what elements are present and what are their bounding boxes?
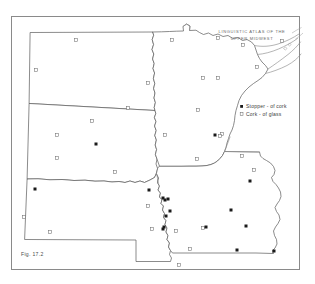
data-point-marker [178, 264, 181, 267]
legend-label-cork-of-glass: Cork - of glass [246, 111, 282, 117]
apostle-islands-1 [284, 47, 288, 50]
data-point-marker [164, 199, 167, 202]
state-south-dakota [28, 104, 158, 183]
data-point-marker [49, 231, 52, 234]
data-point-marker [273, 250, 276, 253]
data-point-marker [205, 226, 208, 229]
data-point-marker [34, 188, 37, 191]
data-point-marker [219, 135, 222, 138]
data-point-marker [217, 37, 220, 40]
data-point-marker [167, 198, 170, 201]
data-point-marker [202, 77, 205, 80]
data-point-marker [162, 228, 165, 231]
data-point-marker [245, 225, 248, 228]
data-point-marker [91, 120, 94, 123]
data-point-marker [281, 40, 284, 43]
data-point-marker [56, 157, 59, 160]
data-point-marker [75, 39, 78, 42]
data-point-marker [35, 69, 38, 72]
map-legend: Stopper - of cork Cork - of glass [240, 103, 287, 117]
data-point-marker [165, 215, 168, 218]
state-nebraska [25, 174, 172, 262]
data-point-marker [241, 155, 244, 158]
legend-label-stopper-of-cork: Stopper - of cork [246, 103, 287, 109]
data-point-marker [151, 228, 154, 231]
data-point-marker [256, 66, 259, 69]
atlas-title-line-1: LINGUISTIC ATLAS OF THE [219, 29, 286, 34]
data-point-marker [189, 248, 192, 251]
isle-royale [292, 28, 302, 34]
data-point-marker [169, 210, 172, 213]
data-point-marker [95, 143, 98, 146]
data-point-marker [148, 189, 151, 192]
state-minnesota [152, 24, 268, 166]
apostle-islands-2 [288, 43, 291, 46]
state-north-dakota [30, 32, 156, 111]
figure-caption: Fig. 17.2 [21, 251, 44, 257]
data-point-marker [197, 109, 200, 112]
data-point-marker [147, 205, 150, 208]
data-point-marker [147, 82, 150, 85]
data-point-marker [202, 227, 205, 230]
atlas-title-line-2: UPPER MIDWEST [231, 36, 274, 41]
data-point-marker [164, 134, 167, 137]
legend-filled-square-icon [240, 105, 243, 108]
data-point-marker [236, 249, 239, 252]
data-point-marker [230, 209, 233, 212]
state-iowa [156, 152, 281, 254]
data-point-marker [114, 171, 117, 174]
data-point-marker [127, 107, 130, 110]
data-point-marker [56, 134, 59, 137]
data-point-marker [171, 39, 174, 42]
figure-container: LINGUISTIC ATLAS OF THE UPPER MIDWEST St… [0, 0, 315, 284]
lake-superior-south-shore [266, 54, 302, 74]
data-point-marker [214, 134, 217, 137]
data-point-marker [249, 180, 252, 183]
data-point-marker [253, 169, 256, 172]
map-graphic: LINGUISTIC ATLAS OF THE UPPER MIDWEST St… [0, 0, 315, 284]
data-point-marker [242, 44, 245, 47]
legend-open-square-icon [240, 113, 243, 116]
data-point-marker [23, 216, 26, 219]
data-point-marker [217, 77, 220, 80]
data-point-marker [175, 230, 178, 233]
data-point-marker [196, 158, 199, 161]
